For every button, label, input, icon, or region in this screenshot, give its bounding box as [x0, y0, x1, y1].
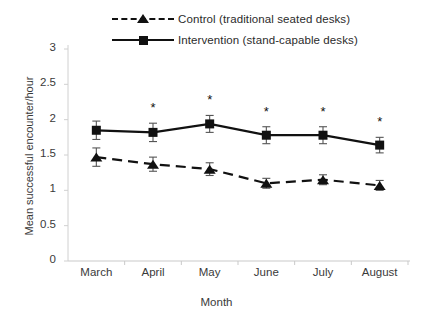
data-point-square [262, 131, 271, 140]
x-tick-label: July [313, 266, 333, 278]
x-tick-label: March [80, 266, 112, 278]
data-point-square [149, 128, 158, 137]
x-tick-label: June [254, 266, 279, 278]
significance-asterisk: * [264, 104, 269, 119]
data-point-square [92, 126, 101, 135]
data-point-square [375, 141, 384, 150]
chart-figure: Control (traditional seated desks) Inter… [0, 0, 433, 321]
x-tick-label: April [141, 266, 164, 278]
significance-asterisk: * [207, 92, 212, 107]
x-tick-label: May [199, 266, 221, 278]
series-line-triangle [96, 157, 379, 185]
data-point-square [319, 131, 328, 140]
significance-asterisk: * [377, 114, 382, 129]
x-tick-label: August [362, 266, 398, 278]
significance-asterisk: * [320, 104, 325, 119]
data-point-square [205, 119, 214, 128]
significance-asterisk: * [150, 100, 155, 115]
series-line-square [96, 124, 379, 145]
